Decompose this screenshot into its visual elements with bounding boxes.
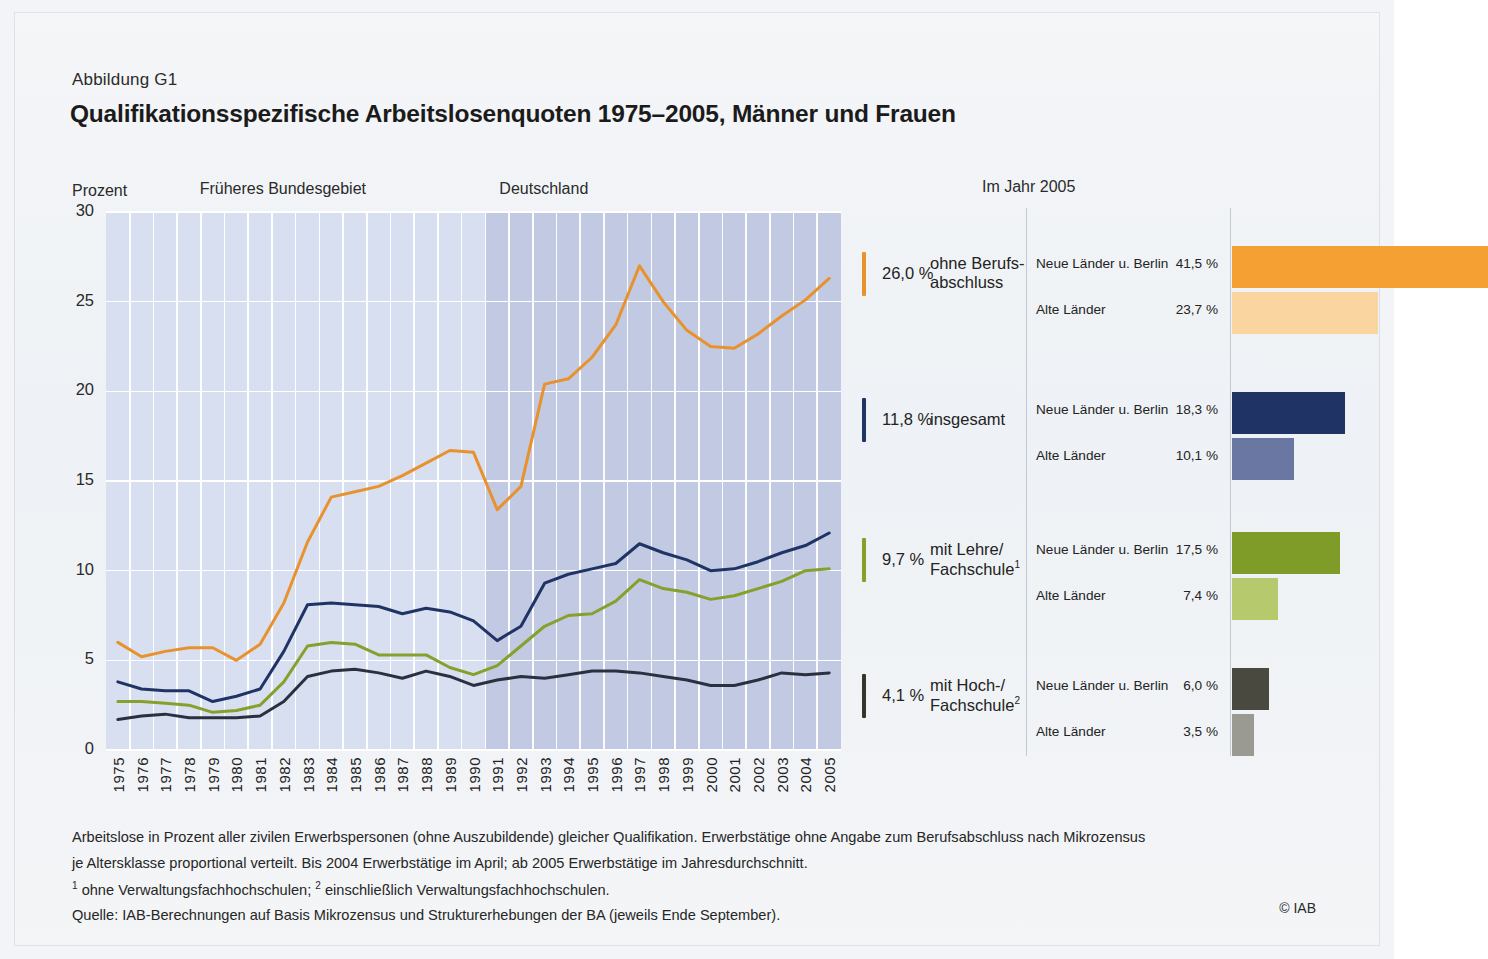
legend-label-line2: abschluss [930, 273, 1024, 292]
side-bar-row-value: 41,5 % [1162, 256, 1218, 271]
x-axis-tick: 1975 [110, 757, 127, 792]
figure-number: Abbildung G1 [72, 70, 177, 90]
x-axis-tick: 1981 [252, 757, 269, 792]
legend-label-superscript: 1 [1014, 559, 1020, 570]
legend-divider-2 [1230, 208, 1231, 756]
x-axis-tick: 1996 [608, 757, 625, 792]
legend-label-line1: mit Lehre/ [930, 540, 1020, 559]
source-line: Quelle: IAB-Berechnungen auf Basis Mikro… [72, 905, 1362, 926]
x-axis-tick: 1977 [157, 757, 174, 792]
legend-value: 26,0 % [882, 264, 933, 283]
x-axis-tick: 1997 [631, 757, 648, 792]
footnote-line-1: Arbeitslose in Prozent aller zivilen Erw… [72, 827, 1362, 848]
series-line [118, 533, 829, 702]
side-bar-row-value: 7,4 % [1162, 588, 1218, 603]
legend-label-line2: Fachschule2 [930, 695, 1020, 714]
legend-value: 4,1 % [882, 686, 924, 705]
side-bar-row-value: 3,5 % [1162, 724, 1218, 739]
x-axis-tick: 1984 [323, 757, 340, 792]
footnote-marker-1: 1 [72, 880, 78, 891]
legend-label-line1: insgesamt [930, 410, 1005, 429]
x-axis-tick: 1998 [655, 757, 672, 792]
x-axis-tick: 1980 [228, 757, 245, 792]
series-lines [106, 212, 841, 750]
side-bar [1232, 438, 1294, 480]
legend-label-line1: mit Hoch-/ [930, 676, 1020, 695]
footnote-line-3: 1 ohne Verwaltungsfachhochschulen; 2 ein… [72, 879, 1362, 901]
copyright-label: © IAB [1279, 900, 1316, 916]
line-chart-plot-area [106, 212, 841, 750]
side-bar-row-value: 18,3 % [1162, 402, 1218, 417]
x-axis-tick: 1999 [679, 757, 696, 792]
page-title: Qualifikationsspezifische Arbeitslosenqu… [70, 100, 956, 128]
y-axis-unit-label: Prozent [72, 182, 127, 200]
legend-label: mit Hoch-/Fachschule2 [930, 676, 1020, 714]
side-bar-row-label: Neue Länder u. Berlin [1036, 402, 1168, 417]
x-axis-tick: 2001 [726, 757, 743, 792]
legend-color-swatch [862, 398, 866, 442]
x-axis-tick: 1985 [347, 757, 364, 792]
y-axis-tick: 20 [54, 380, 94, 399]
x-axis-tick: 2000 [703, 757, 720, 792]
side-bar-row-value: 6,0 % [1162, 678, 1218, 693]
series-line [118, 266, 829, 661]
side-bar-row-label: Alte Länder [1036, 448, 1106, 463]
figure-sheet: Abbildung G1 Qualifikationsspezifische A… [14, 12, 1380, 946]
legend-label-superscript: 2 [1014, 695, 1020, 706]
legend-color-swatch [862, 538, 866, 582]
x-axis-tick: 1976 [134, 757, 151, 792]
legend-value: 11,8 % [882, 410, 932, 429]
x-axis-tick: 1983 [300, 757, 317, 792]
legend-label: ohne Berufs-abschluss [930, 254, 1024, 292]
x-axis-tick: 1990 [466, 757, 483, 792]
footnote-line-2: je Altersklasse proportional verteilt. B… [72, 853, 1362, 874]
region-label-germany: Deutschland [499, 180, 588, 198]
x-axis-tick: 1994 [560, 757, 577, 792]
x-axis-tick: 1986 [371, 757, 388, 792]
side-bar [1232, 292, 1378, 334]
x-axis-tick: 1991 [489, 757, 506, 792]
side-bar-row-label: Neue Länder u. Berlin [1036, 256, 1168, 271]
side-bar [1232, 714, 1254, 756]
x-axis-tick: 1989 [442, 757, 459, 792]
footnote-text-2: einschließlich Verwaltungsfachhochschule… [325, 882, 610, 898]
x-axis-tick: 1992 [513, 757, 530, 792]
series-line [118, 569, 829, 712]
x-axis-tick: 1988 [418, 757, 435, 792]
side-bar-row-label: Alte Länder [1036, 724, 1106, 739]
side-bar-row-value: 17,5 % [1162, 542, 1218, 557]
legend-color-swatch [862, 674, 866, 718]
x-axis-tick: 2002 [750, 757, 767, 792]
side-bar-row-label: Alte Länder [1036, 588, 1106, 603]
x-axis-tick: 2005 [821, 757, 838, 792]
side-bar-row-value: 10,1 % [1162, 448, 1218, 463]
legend-label-line1: ohne Berufs- [930, 254, 1024, 273]
y-axis-tick: 10 [54, 560, 94, 579]
legend-color-swatch [862, 252, 866, 296]
x-axis-tick: 2004 [797, 757, 814, 792]
x-axis-tick: 1978 [181, 757, 198, 792]
side-panel-title: Im Jahr 2005 [982, 178, 1075, 196]
legend-label: mit Lehre/Fachschule1 [930, 540, 1020, 578]
x-axis-tick: 1979 [205, 757, 222, 792]
x-axis-tick: 1995 [584, 757, 601, 792]
legend-divider-1 [1026, 208, 1027, 756]
x-axis-tick: 2003 [774, 757, 791, 792]
legend-value: 9,7 % [882, 550, 924, 569]
y-axis-tick: 30 [54, 201, 94, 220]
side-bar-row-label: Neue Länder u. Berlin [1036, 678, 1168, 693]
footnote-text-1: ohne Verwaltungsfachhochschulen; [82, 882, 312, 898]
side-bar [1232, 246, 1488, 288]
x-axis-tick: 1987 [394, 757, 411, 792]
y-axis-tick: 5 [54, 649, 94, 668]
x-axis-tick: 1982 [276, 757, 293, 792]
side-bar-row-value: 23,7 % [1162, 302, 1218, 317]
x-axis-tick: 1993 [537, 757, 554, 792]
y-axis-tick: 25 [54, 291, 94, 310]
region-label-west: Früheres Bundesgebiet [200, 180, 366, 198]
legend-label-line2: Fachschule1 [930, 559, 1020, 578]
side-bar [1232, 392, 1345, 434]
y-axis-tick: 15 [54, 470, 94, 489]
y-axis-tick: 0 [54, 739, 94, 758]
